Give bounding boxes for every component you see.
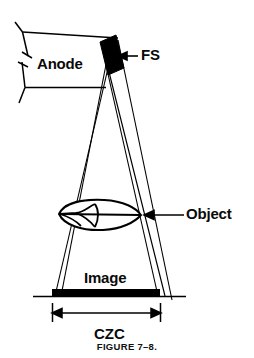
housing-break-mark xyxy=(15,22,32,103)
image-black-bar xyxy=(52,289,160,296)
label-focal-spot: FS xyxy=(141,47,160,62)
label-image: Image xyxy=(84,270,126,285)
label-object: Object xyxy=(186,206,231,221)
czc-dimension-arrow xyxy=(52,303,161,322)
label-anode: Anode xyxy=(37,56,83,71)
radiography-diagram xyxy=(0,0,254,358)
label-czc: CZC xyxy=(94,326,125,341)
figure-container: Anode FS Object Image CZC FIGURE 7–8. xyxy=(0,0,254,358)
figure-caption: FIGURE 7–8. xyxy=(0,341,254,352)
object-leader-arrow xyxy=(144,211,184,220)
x-ray-beam-rays xyxy=(55,38,172,300)
